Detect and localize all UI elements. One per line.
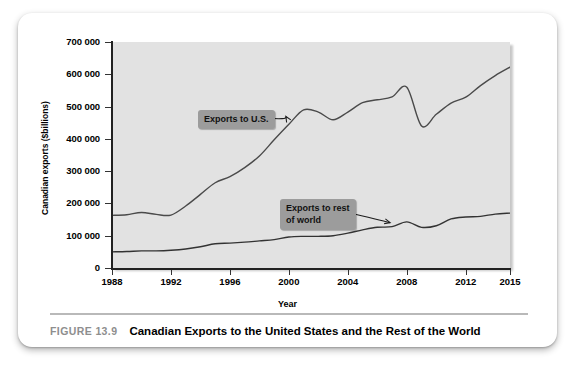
y-axis-line (111, 41, 113, 270)
y-axis-tick-label: 0 (95, 262, 100, 273)
y-axis-tick-label: 200 000 (66, 197, 100, 208)
y-axis-tick-label: 500 000 (66, 101, 100, 112)
y-axis-tick-label: 700 000 (66, 36, 100, 47)
annotation-arrow-exports-to-us-head (286, 116, 291, 122)
x-axis-tick-label: 2004 (337, 276, 358, 287)
x-axis-tick-label: 2008 (396, 276, 417, 287)
series-line-exports-to-us (112, 67, 510, 215)
figure-caption: FIGURE 13.9Canadian Exports to the Unite… (50, 325, 540, 337)
x-axis-tick (171, 270, 172, 275)
y-axis-tick-label: 600 000 (66, 68, 100, 79)
x-axis-tick (407, 270, 408, 275)
x-axis-tick (510, 270, 511, 275)
y-axis-tick: 500 000 (105, 107, 111, 108)
y-axis-tick: 0 (105, 268, 111, 269)
plot-area (112, 42, 510, 268)
x-axis-tick (112, 270, 113, 275)
x-axis-tick-label: 1992 (160, 276, 181, 287)
y-axis-tick: 200 000 (105, 203, 111, 204)
caption-divider (50, 313, 528, 315)
figure-card: 0100 000200 000300 000400 000500 000600 … (18, 13, 557, 347)
y-axis-tick: 600 000 (105, 74, 111, 75)
y-axis-title: Canadian exports ($billions) (40, 0, 50, 83)
figure-number: FIGURE 13.9 (50, 325, 117, 337)
y-axis-tick-label: 400 000 (66, 133, 100, 144)
x-axis-title: Year (18, 299, 557, 309)
y-axis-tick-label: 100 000 (66, 230, 100, 241)
plot-svg (112, 42, 510, 268)
annotation-exports-to-us: Exports to U.S. (198, 110, 275, 129)
x-axis-tick (289, 270, 290, 275)
annotation-exports-to-rest-of-world: Exports to rest of world (280, 199, 356, 230)
y-axis-title-text: Canadian exports ($billions) (40, 83, 50, 233)
x-axis-tick-label: 2012 (455, 276, 476, 287)
figure-title: Canadian Exports to the United States an… (129, 325, 480, 337)
y-axis-tick: 300 000 (105, 171, 111, 172)
x-axis-tick (348, 270, 349, 275)
x-axis-tick-label: 2000 (278, 276, 299, 287)
x-axis-tick-label: 2015 (499, 276, 520, 287)
x-axis-tick-label: 1996 (219, 276, 240, 287)
x-axis-tick (230, 270, 231, 275)
x-axis-tick-label: 1988 (101, 276, 122, 287)
y-axis-tick: 700 000 (105, 42, 111, 43)
y-axis-tick: 100 000 (105, 236, 111, 237)
chart-region: 0100 000200 000300 000400 000500 000600 … (18, 13, 557, 305)
y-axis-tick-label: 300 000 (66, 165, 100, 176)
x-axis-tick (466, 270, 467, 275)
y-axis-tick: 400 000 (105, 139, 111, 140)
